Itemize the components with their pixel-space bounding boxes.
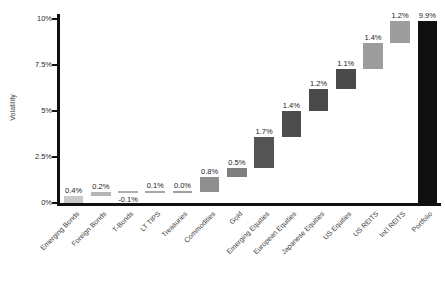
bar[interactable] (64, 196, 84, 203)
bar[interactable] (118, 191, 138, 193)
bar[interactable] (363, 43, 383, 69)
bar[interactable] (254, 137, 274, 168)
bar[interactable] (282, 111, 302, 137)
bar-value-label: 0.0% (165, 181, 201, 190)
bar-value-label: 1.1% (328, 59, 364, 68)
bar-value-label: 0.5% (219, 158, 255, 167)
bar-value-label: 1.7% (246, 127, 282, 136)
bar[interactable] (173, 191, 193, 193)
waterfall-chart: Volatility 0%2.5%5%7.5%10% Emerging Bond… (0, 0, 445, 290)
bar[interactable] (418, 21, 438, 203)
bar-value-label: 1.4% (274, 101, 310, 110)
bar-value-label: 0.2% (83, 182, 119, 191)
bar-value-label: 9.9% (410, 11, 445, 20)
bar-value-label: 1.4% (355, 33, 391, 42)
bar[interactable] (145, 191, 165, 193)
bar-value-label: 1.2% (301, 79, 337, 88)
bar[interactable] (309, 89, 329, 111)
bar[interactable] (390, 21, 410, 43)
bar-value-label: 0.8% (192, 167, 228, 176)
bar-value-label: -0.1% (110, 195, 146, 204)
bar[interactable] (91, 192, 111, 196)
bar[interactable] (336, 69, 356, 89)
bar[interactable] (227, 168, 247, 177)
bar[interactable] (200, 177, 220, 192)
